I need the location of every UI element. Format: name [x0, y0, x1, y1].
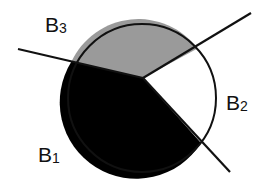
label-b2: B2 — [226, 91, 248, 114]
label-b1: B1 — [38, 143, 60, 166]
partition-diagram: B3 B2 B1 — [0, 0, 260, 184]
label-b3: B3 — [45, 13, 67, 36]
